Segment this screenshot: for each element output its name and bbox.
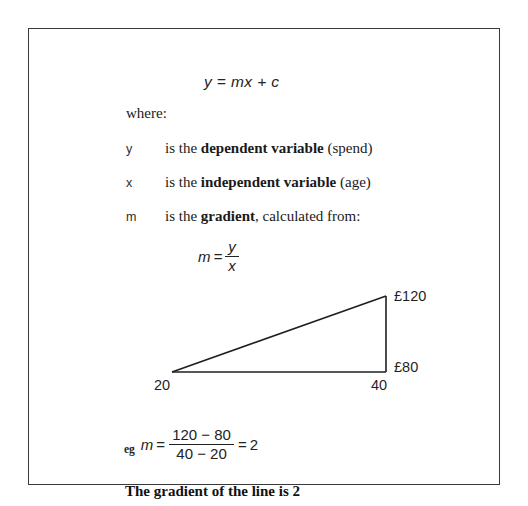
gradient-formula-numerator: y xyxy=(225,239,239,255)
conclusion-statement: The gradient of the line is 2 xyxy=(125,483,300,500)
example-equals-second: = xyxy=(238,436,247,453)
gradient-formula: m = y x xyxy=(198,239,239,274)
definition-row-y: y is the dependent variable (spend) xyxy=(126,142,466,162)
definition-prefix-x: is the xyxy=(165,174,201,190)
definition-row-x: x is the independent variable (age) xyxy=(126,176,466,196)
gradient-triangle-diagram: £120 £80 20 40 xyxy=(149,284,439,399)
definition-text-x: is the independent variable (age) xyxy=(165,174,371,191)
definition-text-y: is the dependent variable (spend) xyxy=(165,140,373,157)
definition-prefix-m: is the xyxy=(165,208,201,224)
example-calculation: eg m = 120 − 80 40 − 20 = 2 xyxy=(124,427,258,462)
definition-suffix-m: , calculated from: xyxy=(255,208,360,224)
definition-term-m: gradient xyxy=(201,208,255,224)
triangle-label-y-bottom: £80 xyxy=(394,359,418,375)
definition-row-m: m is the gradient, calculated from: xyxy=(126,210,466,230)
gradient-formula-equals: = xyxy=(214,248,223,265)
definition-symbol-x: x xyxy=(126,176,162,190)
triangle-label-x-left: 20 xyxy=(154,377,170,393)
example-prefix: eg xyxy=(124,443,135,455)
where-label: where: xyxy=(126,105,167,122)
example-fraction: 120 − 80 40 − 20 xyxy=(169,427,234,462)
gradient-formula-denominator: x xyxy=(225,258,239,274)
triangle-hypotenuse-line xyxy=(172,296,386,372)
definition-symbol-y: y xyxy=(126,142,162,156)
linear-equation-formula: y = mx + c xyxy=(204,73,280,91)
gradient-formula-lhs: m xyxy=(198,248,211,265)
triangle-label-y-top: £120 xyxy=(394,288,426,304)
definition-text-m: is the gradient, calculated from: xyxy=(165,208,360,225)
figure-border-box: y = mx + c where: y is the dependent var… xyxy=(28,28,500,485)
example-equals-first: = xyxy=(156,436,165,453)
definition-prefix-y: is the xyxy=(165,140,201,156)
definition-term-y: dependent variable xyxy=(201,140,324,156)
example-numerator: 120 − 80 xyxy=(169,427,234,443)
example-denominator: 40 − 20 xyxy=(173,446,229,462)
definition-suffix-x: (age) xyxy=(336,174,371,190)
definition-symbol-m: m xyxy=(126,210,162,224)
gradient-formula-fraction: y x xyxy=(225,239,239,274)
triangle-label-x-right: 40 xyxy=(371,377,387,393)
definition-suffix-y: (spend) xyxy=(324,140,373,156)
example-result: 2 xyxy=(250,436,258,453)
definition-term-x: independent variable xyxy=(201,174,336,190)
example-lhs: m xyxy=(141,436,154,453)
